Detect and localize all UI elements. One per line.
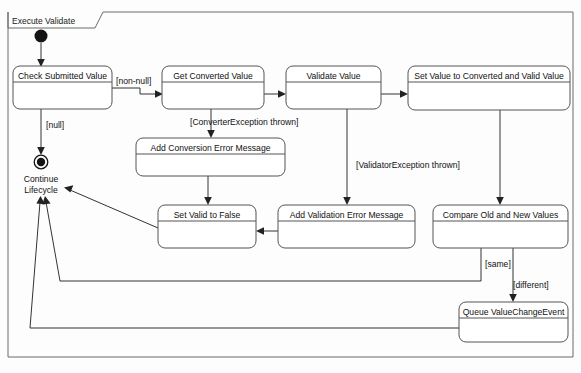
uml-activity-diagram: Execute Validate: [0, 0, 581, 373]
activity-add-validation-error-message[interactable]: Add Validation Error Message: [278, 205, 415, 248]
final-node: Continue Lifecycle: [24, 155, 59, 195]
initial-node-dot: [35, 30, 48, 43]
activity-get-converted-value[interactable]: Get Converted Value: [162, 66, 264, 109]
arrowhead-validate-to-setvalue: [400, 90, 408, 98]
arrowhead-validate-to-addvalidationerror: [343, 197, 351, 205]
arrowhead-setvalue-to-compare: [496, 197, 504, 205]
final-node-label-line1: Continue: [24, 174, 59, 184]
activity-check-submitted-value[interactable]: Check Submitted Value: [13, 66, 112, 109]
activity-nodes: Check Submitted Value Get Converted Valu…: [13, 66, 570, 342]
activity-label: Validate Value: [306, 71, 360, 81]
guard-different-label: [different]: [513, 280, 549, 290]
activity-set-valid-to-false[interactable]: Set Valid to False: [158, 205, 256, 248]
arrowhead-compare-to-queue: [509, 294, 517, 302]
arrowhead-addvalidationerror-to-setvalidfalse: [256, 227, 264, 235]
activity-add-conversion-error-message[interactable]: Add Conversion Error Message: [136, 138, 285, 176]
arrowhead-getconverted-to-validate: [278, 90, 286, 98]
arrowhead-check-to-final: [37, 147, 45, 155]
activity-label: Compare Old and New Values: [443, 210, 558, 220]
activity-compare-old-and-new-values[interactable]: Compare Old and New Values: [433, 205, 568, 248]
activity-label: Check Submitted Value: [18, 71, 107, 81]
flow-compare-same-to-final: [46, 202, 481, 281]
activity-validate-value[interactable]: Validate Value: [286, 66, 381, 109]
final-node-label-line2: Lifecycle: [24, 185, 58, 195]
guard-converter-exception-label: [ConverterException thrown]: [190, 117, 298, 127]
activity-label: Queue ValueChangeEvent: [463, 307, 565, 317]
activity-set-value-to-converted-and-valid-value[interactable]: Set Value to Converted and Valid Value: [408, 66, 570, 110]
activity-label: Add Validation Error Message: [290, 210, 404, 220]
final-node-dot: [37, 158, 45, 166]
activity-label: Add Conversion Error Message: [151, 143, 271, 153]
frame-title-label: Execute Validate: [12, 16, 75, 26]
arrowhead-getconverted-to-addconversionerror: [207, 130, 215, 138]
arrowhead-queue-to-final: [36, 196, 45, 204]
diagram-canvas: Execute Validate: [0, 0, 581, 373]
activity-label: Set Valid to False: [174, 210, 241, 220]
guard-non-null-label: [non-null]: [116, 76, 151, 86]
guard-same-label: [same]: [485, 259, 511, 269]
flow-check-to-getconverted: [112, 88, 158, 94]
activity-queue-valuechangeevent[interactable]: Queue ValueChangeEvent: [459, 302, 568, 342]
guard-null-label: [null]: [46, 120, 64, 130]
activity-label: Set Value to Converted and Valid Value: [414, 71, 564, 81]
guard-validator-exception-label: [ValidatorException thrown]: [356, 160, 460, 170]
arrowhead-addconversionerror-to-setvalidfalse: [204, 197, 212, 205]
activity-label: Get Converted Value: [173, 71, 253, 81]
initial-node: [35, 30, 48, 43]
arrowhead-setvalidfalse-to-final: [64, 185, 73, 192]
flow-setvalidfalse-to-final: [70, 190, 158, 228]
